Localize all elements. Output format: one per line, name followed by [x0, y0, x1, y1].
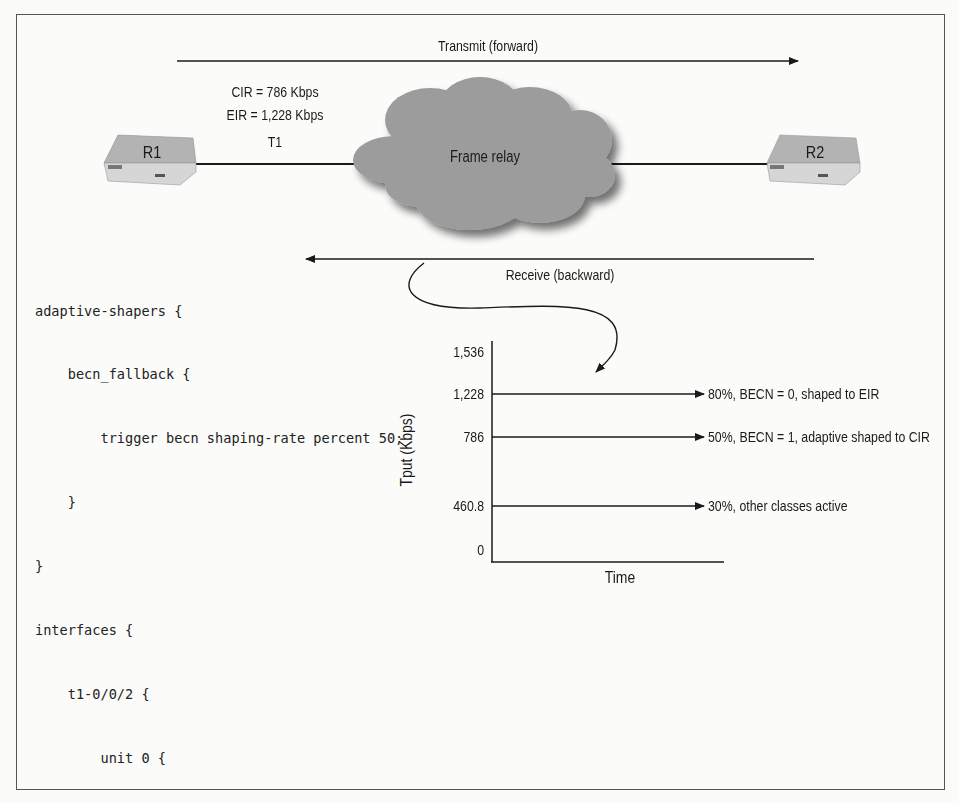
- x-axis-title: Time: [595, 568, 644, 588]
- series-label-eir: 80%, BECN = 0, shaped to EIR: [708, 385, 879, 402]
- code-line: trigger becn shaping-rate percent 50;: [35, 428, 493, 449]
- t1-label: T1: [259, 133, 292, 150]
- code-line: }: [35, 492, 493, 513]
- cir-label: CIR = 786 Kbps: [226, 83, 324, 100]
- y-tick-label: 1,536: [435, 343, 484, 360]
- y-tick-label: 460.8: [435, 497, 484, 514]
- code-line: becn_fallback {: [35, 364, 493, 385]
- y-tick-label: 0: [435, 541, 484, 558]
- y-tick-label: 786: [435, 428, 484, 445]
- code-line: t1-0/0/2 {: [35, 684, 493, 705]
- config-code-block: adaptive-shapers { becn_fallback { trigg…: [35, 258, 493, 803]
- code-line: adaptive-shapers {: [35, 301, 493, 322]
- y-axis-title: Tput (Kbps): [397, 405, 417, 495]
- code-line: unit 0 {: [35, 748, 493, 769]
- code-line: interfaces {: [35, 620, 493, 641]
- y-tick-label: 1,228: [435, 385, 484, 402]
- series-label-cir: 50%, BECN = 1, adaptive shaped to CIR: [708, 428, 930, 445]
- transmit-label: Transmit (forward): [431, 37, 546, 54]
- series-label-other: 30%, other classes active: [708, 497, 847, 514]
- code-line: }: [35, 556, 493, 577]
- eir-label: EIR = 1,228 Kbps: [222, 106, 329, 123]
- router-r2-label: R2: [798, 143, 832, 163]
- router-r1-label: R1: [135, 143, 169, 163]
- cloud-label: Frame relay: [440, 148, 530, 166]
- receive-label: Receive (backward): [503, 266, 618, 283]
